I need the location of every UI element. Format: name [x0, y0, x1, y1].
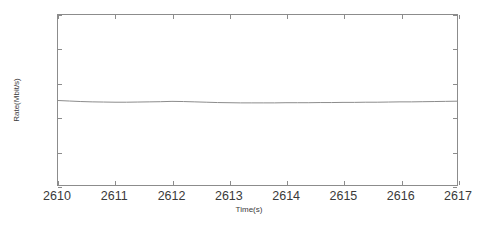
y-tick-mark [453, 84, 457, 85]
x-tick-mark [230, 15, 231, 19]
y-tick-mark [58, 84, 62, 85]
y-tick-mark [453, 118, 457, 119]
x-tick-label: 2615 [330, 189, 358, 203]
y-tick-mark [453, 187, 457, 188]
data-series-line [58, 15, 457, 185]
y-tick-mark [58, 118, 62, 119]
x-tick-mark [173, 15, 174, 19]
y-tick-mark [58, 187, 62, 188]
x-axis-label: Time(s) [236, 205, 263, 215]
x-tick-mark [287, 15, 288, 19]
x-tick-mark [58, 181, 59, 185]
y-tick-mark [453, 15, 457, 16]
x-tick-label: 2611 [101, 189, 128, 203]
y-tick-mark [453, 49, 457, 50]
x-tick-label: 2610 [43, 189, 71, 203]
y-tick-mark [58, 49, 62, 50]
x-tick-label: 2617 [444, 189, 472, 203]
x-tick-mark [173, 181, 174, 185]
y-tick-mark [58, 153, 62, 154]
x-tick-mark [459, 15, 460, 19]
x-tick-mark [459, 181, 460, 185]
y-tick-mark [453, 153, 457, 154]
y-tick-mark [58, 15, 62, 16]
x-tick-mark [344, 181, 345, 185]
x-tick-label: 2616 [387, 189, 415, 203]
figure-canvas: 26102611261226132614261526162617 66.26.4… [0, 0, 485, 229]
x-tick-label: 2613 [215, 189, 243, 203]
x-tick-mark [287, 181, 288, 185]
x-tick-mark [115, 181, 116, 185]
x-tick-label: 2612 [158, 189, 186, 203]
y-axis-label: Rate(Mbit/s) [12, 78, 22, 122]
x-tick-mark [230, 181, 231, 185]
x-tick-mark [402, 181, 403, 185]
x-tick-label: 2614 [272, 189, 300, 203]
x-tick-mark [344, 15, 345, 19]
x-tick-mark [115, 15, 116, 19]
plot-area [57, 14, 458, 186]
x-tick-mark [402, 15, 403, 19]
